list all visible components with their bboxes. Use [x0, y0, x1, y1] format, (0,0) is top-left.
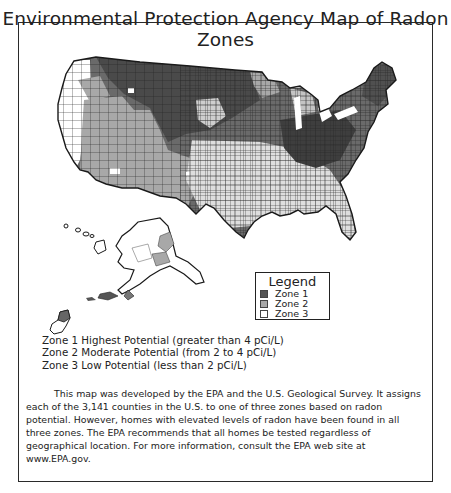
legend-label: Zone 3	[275, 308, 308, 319]
contiguous-us	[50, 50, 410, 250]
zone-3-swatch	[260, 310, 268, 318]
zone-1-swatch	[260, 290, 268, 298]
map-legend: Legend Zone 1 Zone 2 Zone 3	[255, 272, 330, 320]
legend-title: Legend	[256, 274, 329, 289]
zone-2-description: Zone 2 Moderate Potential (from 2 to 4 p…	[42, 346, 284, 358]
description-paragraph: This map was developed by the EPA and th…	[26, 387, 421, 465]
alaska	[86, 218, 204, 301]
legend-item-zone-3: Zone 3	[260, 308, 308, 319]
zone-2-swatch	[260, 300, 268, 308]
zone-3-description: Zone 3 Low Potential (less than 2 pCi/L)	[42, 359, 284, 371]
zone-descriptions: Zone 1 Highest Potential (greater than 4…	[42, 334, 284, 371]
hawaii	[64, 224, 106, 254]
guam	[50, 310, 70, 334]
zone-1-description: Zone 1 Highest Potential (greater than 4…	[42, 334, 284, 346]
